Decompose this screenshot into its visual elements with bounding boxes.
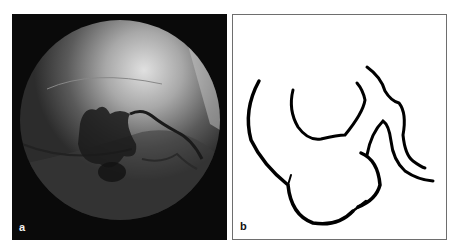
panel-b-schematic: b bbox=[232, 14, 447, 240]
panel-label-b: b bbox=[240, 220, 247, 232]
angiogram-image bbox=[12, 14, 227, 240]
panel-a-angiogram: a bbox=[12, 14, 227, 240]
panel-label-a: a bbox=[19, 221, 25, 233]
vessel-outline-drawing bbox=[233, 15, 446, 239]
